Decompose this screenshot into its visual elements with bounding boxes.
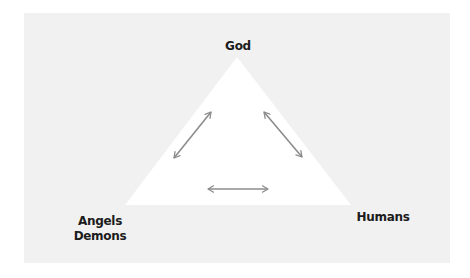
node-label-humans: Humans [352,210,414,225]
triangle-shape [125,57,351,205]
node-label-angels: Angels [70,214,130,229]
node-label-angels-demons: Angels Demons [70,214,130,244]
node-label-god: God [222,39,254,54]
node-label-demons: Demons [70,229,130,244]
